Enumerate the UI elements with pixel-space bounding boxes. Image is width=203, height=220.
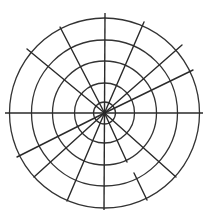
spoke-6 [105, 113, 177, 177]
spoke-9 [17, 113, 105, 157]
spoke-10 [34, 113, 105, 177]
polar-grid-diagram [0, 0, 203, 220]
spoke-11 [67, 113, 105, 201]
spoke-4 [105, 45, 183, 113]
spoke-3 [105, 22, 145, 113]
spoke-7 [105, 113, 128, 162]
spoke-5 [105, 70, 194, 113]
